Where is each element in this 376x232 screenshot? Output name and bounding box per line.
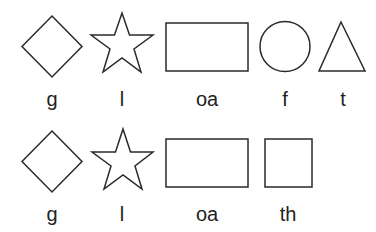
item-rectangle: oa (166, 23, 248, 110)
shape-label: l (120, 203, 124, 225)
row-1: g l oa f t (22, 13, 365, 110)
item-diamond: g (22, 131, 82, 225)
shape-label: l (120, 88, 124, 110)
shape-label: g (46, 88, 57, 110)
item-diamond: g (22, 16, 82, 110)
diamond-icon (22, 16, 82, 77)
square-icon (265, 139, 312, 187)
item-star: l (92, 129, 153, 225)
item-circle: f (260, 22, 310, 111)
circle-icon (260, 22, 310, 72)
item-triangle: t (319, 22, 365, 110)
shape-label: th (280, 203, 297, 225)
star-icon (92, 129, 153, 189)
rectangle-icon (166, 139, 248, 187)
triangle-icon (319, 22, 365, 71)
shape-label: t (340, 88, 346, 110)
diamond-icon (22, 131, 82, 192)
shape-label: f (282, 88, 288, 110)
star-icon (91, 13, 153, 72)
row-2: g l oa th (22, 129, 312, 225)
shape-label: oa (196, 88, 219, 110)
item-rectangle: oa (166, 139, 248, 225)
shape-label: g (46, 203, 57, 225)
rectangle-icon (166, 23, 248, 71)
shape-diagram: g l oa f t g l oa (0, 0, 376, 232)
shape-label: oa (196, 203, 219, 225)
item-square: th (265, 139, 312, 225)
item-star: l (91, 13, 153, 110)
